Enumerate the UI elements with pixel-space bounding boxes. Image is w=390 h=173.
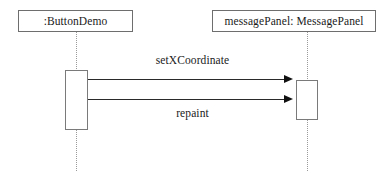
message-label-repaint: repaint	[100, 107, 285, 119]
object-box-buttondemo-label: :ButtonDemo	[44, 15, 108, 27]
message-arrowhead-setxcoordinate	[284, 75, 293, 83]
message-line-repaint	[88, 99, 284, 100]
object-box-messagepanel-label: messagePanel: MessagePanel	[225, 15, 364, 27]
activation-bar-messagepanel	[296, 80, 318, 120]
activation-bar-buttondemo	[65, 70, 88, 130]
message-arrowhead-repaint	[284, 95, 293, 103]
message-label-setxcoordinate: setXCoordinate	[100, 54, 285, 66]
sequence-diagram-canvas: :ButtonDemo messagePanel: MessagePanel s…	[0, 0, 390, 173]
object-box-messagepanel: messagePanel: MessagePanel	[212, 10, 376, 32]
object-box-buttondemo: :ButtonDemo	[18, 10, 133, 32]
message-line-setxcoordinate	[88, 79, 284, 80]
